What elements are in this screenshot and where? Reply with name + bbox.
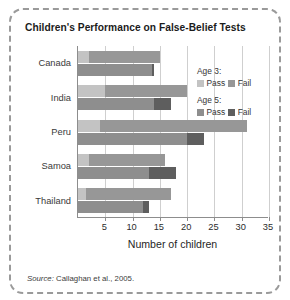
bar-age5-samoa bbox=[78, 167, 176, 179]
x-tick-mark bbox=[214, 217, 215, 221]
bar-segment bbox=[78, 167, 149, 179]
y-axis-category-labels: CanadaIndiaPeruSamoaThailand bbox=[21, 46, 75, 218]
x-tick-mark bbox=[160, 217, 161, 221]
x-tick-mark bbox=[105, 217, 106, 221]
source-note: Source: Callaghan et al., 2005. bbox=[27, 274, 134, 283]
legend-label: Fail bbox=[238, 78, 252, 88]
x-tick-label: 5 bbox=[102, 222, 107, 232]
bar-segment bbox=[78, 188, 86, 200]
legend-row: PassFail bbox=[197, 107, 279, 117]
x-tick-label: 10 bbox=[126, 222, 136, 232]
legend-item: Pass bbox=[197, 78, 225, 88]
bar-segment bbox=[78, 85, 105, 97]
bar-segment bbox=[78, 120, 100, 132]
y-axis-tick-label: Peru bbox=[51, 127, 71, 137]
x-axis-label: Number of children bbox=[77, 238, 268, 250]
x-tick-mark bbox=[269, 217, 270, 221]
legend-swatch-icon bbox=[197, 109, 204, 116]
legend-block: Age 5:PassFail bbox=[197, 95, 279, 117]
x-tick-mark bbox=[187, 217, 188, 221]
bar-age5-peru bbox=[78, 133, 204, 145]
bar-segment bbox=[105, 85, 187, 97]
source-prefix: Source: bbox=[27, 274, 54, 283]
bar-segment bbox=[89, 51, 160, 63]
bar-segment bbox=[78, 51, 89, 63]
bar-segment bbox=[78, 98, 154, 110]
bar-age3-canada bbox=[78, 51, 160, 63]
legend-row: PassFail bbox=[197, 78, 279, 88]
source-text: Callaghan et al., 2005. bbox=[54, 274, 134, 283]
x-tick-label: 30 bbox=[236, 222, 246, 232]
y-axis-tick-label: Samoa bbox=[42, 161, 71, 171]
figure-container: Children's Performance on False-Belief T… bbox=[0, 0, 290, 300]
legend-label: Pass bbox=[207, 78, 226, 88]
bar-age3-samoa bbox=[78, 154, 165, 166]
x-tick-mark bbox=[133, 217, 134, 221]
legend-block: Age 3:PassFail bbox=[197, 66, 279, 88]
bar-age5-india bbox=[78, 98, 171, 110]
bar-segment bbox=[86, 188, 171, 200]
bar-segment bbox=[152, 64, 155, 76]
legend-swatch-icon bbox=[228, 109, 235, 116]
x-gridline bbox=[187, 46, 188, 217]
legend-swatch-icon bbox=[228, 80, 235, 87]
chart-title: Children's Performance on False-Belief T… bbox=[25, 22, 271, 34]
y-axis-tick-label: India bbox=[51, 93, 71, 103]
bar-segment bbox=[187, 133, 203, 145]
bar-segment bbox=[89, 154, 165, 166]
legend-item: Fail bbox=[228, 78, 251, 88]
legend-item: Fail bbox=[228, 107, 251, 117]
x-tick-mark bbox=[242, 217, 243, 221]
bar-age5-thailand bbox=[78, 201, 149, 213]
legend-label: Fail bbox=[238, 107, 252, 117]
bar-segment bbox=[78, 154, 89, 166]
legend-swatch-icon bbox=[197, 80, 204, 87]
bar-age3-india bbox=[78, 85, 187, 97]
bar-segment bbox=[143, 201, 148, 213]
chart-legend: Age 3:PassFailAge 5:PassFail bbox=[197, 66, 279, 124]
legend-heading: Age 5: bbox=[197, 95, 279, 105]
bar-segment bbox=[78, 64, 152, 76]
bar-segment bbox=[78, 201, 143, 213]
dashed-figure-frame: Children's Performance on False-Belief T… bbox=[9, 8, 281, 294]
bar-age5-canada bbox=[78, 64, 154, 76]
x-tick-label: 20 bbox=[181, 222, 191, 232]
x-tick-label: 35 bbox=[263, 222, 273, 232]
x-tick-label: 25 bbox=[208, 222, 218, 232]
bar-segment bbox=[78, 133, 187, 145]
bar-segment bbox=[149, 167, 176, 179]
legend-item: Pass bbox=[197, 107, 225, 117]
x-tick-label: 15 bbox=[154, 222, 164, 232]
y-axis-tick-label: Thailand bbox=[35, 196, 71, 206]
legend-label: Pass bbox=[207, 107, 226, 117]
y-axis-tick-label: Canada bbox=[38, 58, 71, 68]
bar-segment bbox=[154, 98, 170, 110]
bar-age3-thailand bbox=[78, 188, 171, 200]
legend-heading: Age 3: bbox=[197, 66, 279, 76]
